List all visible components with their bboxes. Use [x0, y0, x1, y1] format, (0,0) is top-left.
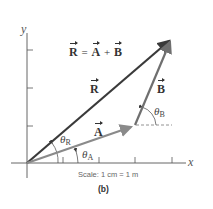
- equation-equals: =: [82, 46, 88, 58]
- theta-a-sub: A: [87, 153, 93, 162]
- vector-a-text: A: [94, 125, 103, 140]
- equation-plus: +: [104, 46, 110, 58]
- vector-r-label: R: [90, 78, 99, 97]
- vector-b-label: B: [157, 78, 165, 97]
- theta-b-sub: B: [159, 110, 164, 119]
- theta-a-arc: [76, 151, 78, 163]
- theta-r-label: θR: [60, 133, 71, 147]
- figure-caption: (b): [98, 184, 109, 194]
- equation-a: A: [92, 45, 101, 60]
- equation-r: R: [69, 45, 78, 60]
- y-axis: [27, 33, 33, 178]
- scale-text: Scale: 1 cm = 1 m: [78, 170, 138, 179]
- equation: R = A + B: [69, 45, 122, 60]
- vector-r-text: R: [90, 82, 99, 97]
- x-axis-label: x: [188, 155, 193, 170]
- vector-a-label: A: [94, 121, 103, 140]
- theta-b-label: θB: [154, 105, 165, 119]
- equation-b: B: [114, 45, 122, 60]
- theta-r-sub: R: [65, 138, 70, 147]
- theta-a-label: θA: [82, 148, 93, 162]
- y-axis-label: y: [21, 22, 26, 37]
- vector-b-text: B: [157, 82, 165, 97]
- vector-a: [27, 127, 131, 163]
